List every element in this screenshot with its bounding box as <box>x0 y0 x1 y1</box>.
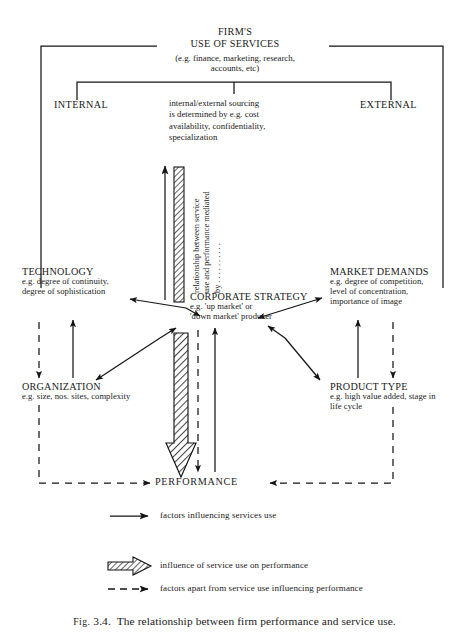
legend-item-dashed-arrow: factors apart from service use influenci… <box>160 583 363 593</box>
node-performance: PERFORMANCE <box>155 476 238 487</box>
sourcing-note-line1: internal/external sourcing <box>169 98 259 108</box>
sourcing-note: internal/external sourcing is determined… <box>169 98 265 144</box>
sourcing-note-line2: is determined by e.g. cost <box>169 109 259 119</box>
node-technology-detail-2: degree of sophistication <box>22 287 109 297</box>
node-technology: TECHNOLOGY e.g. degree of continuity, de… <box>22 266 109 297</box>
sourcing-note-line3: availability, confidentiality, <box>169 121 265 131</box>
node-product-type: PRODUCT TYPE e.g. high value added, stag… <box>330 381 436 412</box>
node-product-type-detail-2: life cycle <box>330 402 436 412</box>
header-subtitle: (e.g. finance, marketing, research, acco… <box>139 53 331 74</box>
mediation-note-line3: by . . . . . . . . . . <box>213 243 222 293</box>
node-corporate-strategy-detail-2: 'down market' producer <box>190 312 308 322</box>
legend-glyph-hatched <box>108 557 151 575</box>
node-market-demands: MARKET DEMANDS e.g. degree of competitio… <box>330 266 429 306</box>
node-organization: ORGANIZATION e.g. size, nos. sites, comp… <box>22 381 130 402</box>
node-market-demands-detail-3: importance of image <box>330 297 429 307</box>
figure-label: Fig. <box>73 616 90 627</box>
mediation-note: relationship between service use and per… <box>192 191 223 293</box>
hatched-block-arrow <box>166 333 196 477</box>
legend-item-hatched-arrow: influence of service use on performance <box>160 560 308 570</box>
node-organization-detail-1: e.g. size, nos. sites, complexity <box>22 392 130 402</box>
header-title: FIRM'S USE OF SERVICES <box>159 26 311 50</box>
legend-item-solid-arrow: factors influencing services use <box>160 510 276 520</box>
hatched-bar-upper <box>174 167 184 302</box>
figure-number: 3.4. <box>93 615 111 627</box>
header-subtitle-line2: accounts, etc) <box>211 63 259 73</box>
figure-caption: Fig. 3.4. The relationship between firm … <box>0 615 469 627</box>
header-subtitle-line1: (e.g. finance, marketing, research, <box>175 53 295 63</box>
header-title-line2: USE OF SERVICES <box>190 38 279 49</box>
branch-label-external: EXTERNAL <box>360 99 417 110</box>
sourcing-note-line4: specialization <box>169 132 217 142</box>
mediation-note-line1: relationship between service <box>192 199 201 293</box>
figure-page: FIRM'S USE OF SERVICES (e.g. finance, ma… <box>0 0 469 641</box>
header-title-line1: FIRM'S <box>218 26 252 37</box>
mediation-note-line2: use and performance mediated <box>202 191 211 293</box>
figure-caption-text: The relationship between firm performanc… <box>117 615 396 627</box>
node-corporate-strategy: CORPORATE STRATEGY e.g. 'up market' or '… <box>190 291 308 322</box>
branch-label-internal: INTERNAL <box>54 99 108 110</box>
